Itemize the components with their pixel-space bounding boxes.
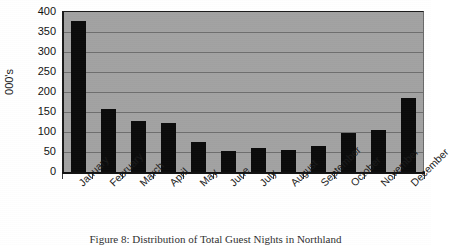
bar-series: [64, 12, 423, 172]
y-tick-label: 250: [22, 66, 56, 77]
y-tick-label: 300: [22, 46, 56, 57]
plot-area: [62, 11, 424, 172]
figure-caption: Figure 8: Distribution of Total Guest Ni…: [0, 233, 431, 245]
y-tick-label: 400: [22, 6, 56, 17]
bar-slot: [94, 12, 124, 172]
bar-slot: [214, 12, 244, 172]
bar: [191, 142, 206, 172]
y-tick-label: 350: [22, 26, 56, 37]
bar-slot: [184, 12, 214, 172]
bar-slot: [124, 12, 154, 172]
bar: [221, 151, 236, 172]
bar-slot: [64, 12, 94, 172]
bar-slot: [363, 12, 393, 172]
y-tick-label: 0: [22, 166, 56, 177]
y-axis-title: 000's: [3, 54, 15, 110]
bar-slot: [303, 12, 333, 172]
y-tick-label: 150: [22, 106, 56, 117]
y-tick-label: 50: [22, 146, 56, 157]
y-axis-tick-labels: 400 350 300 250 200 150 100 50 0: [22, 0, 56, 245]
bar-slot: [273, 12, 303, 172]
x-axis-category-labels: JanuaryFebruaryMarchAprilMayJuneJulyAugu…: [62, 176, 424, 234]
y-tick-label: 100: [22, 126, 56, 137]
bar: [251, 148, 266, 172]
bar-slot: [244, 12, 274, 172]
bar: [281, 150, 296, 172]
bar-slot: [154, 12, 184, 172]
bar: [71, 21, 86, 172]
y-tick-label: 200: [22, 86, 56, 97]
